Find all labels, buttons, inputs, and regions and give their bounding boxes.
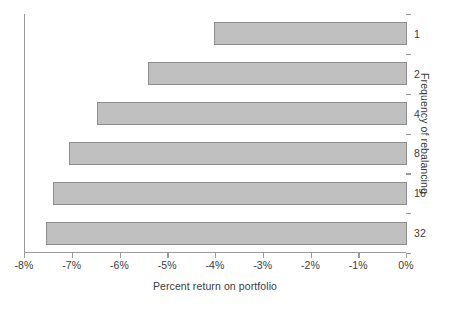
y-axis-tick [406,94,411,95]
y-axis-tick [406,213,411,214]
bar[interactable] [53,182,407,205]
y-axis-tick [406,253,411,254]
bar-band [25,14,406,54]
y-axis-title: Frequency of rebalancing [416,14,434,253]
y-axis-ticks [406,14,411,253]
bar[interactable] [148,62,407,85]
x-axis-tick-label: -5% [158,259,177,271]
x-axis-tick [24,253,25,258]
bar-band [25,173,406,213]
x-axis-tick-labels: -8%-7%-6%-5%-4%-3%-2%-1%0% [0,259,463,275]
bar[interactable] [214,22,407,45]
plot-area [24,14,406,253]
x-axis-tick-label: -6% [110,259,129,271]
x-axis-tick-label: -1% [349,259,368,271]
x-axis-tick-label: 0% [398,259,413,271]
bars-layer [25,14,406,252]
x-axis-tick-label: -2% [301,259,320,271]
bar[interactable] [46,222,407,245]
bar-chart: -8%-7%-6%-5%-4%-3%-2%-1%0% Percent retur… [0,0,463,310]
x-axis-tick [167,253,168,258]
y-axis-tick [406,14,411,15]
y-axis-tick [406,173,411,174]
x-axis-tick [358,253,359,258]
x-axis-tick-label: -4% [206,259,225,271]
bar[interactable] [97,102,407,125]
x-axis-tick [72,253,73,258]
x-axis-tick [120,253,121,258]
y-axis-tick [406,54,411,55]
x-axis-title: Percent return on portfolio [24,280,406,292]
x-axis-tick [215,253,216,258]
x-axis-tick [311,253,312,258]
bar-band [25,134,406,174]
x-axis-tick-label: -7% [62,259,81,271]
y-axis-tick [406,134,411,135]
x-axis-tick [263,253,264,258]
bar-band [25,213,406,253]
x-axis-ticks [24,253,406,258]
bar-band [25,94,406,134]
bar[interactable] [69,142,407,165]
x-axis-tick-label: -3% [253,259,272,271]
bar-band [25,54,406,94]
x-axis-tick-label: -8% [15,259,34,271]
